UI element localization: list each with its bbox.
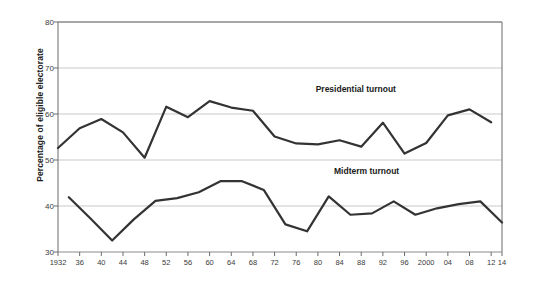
x-tick-label: 12 — [487, 258, 495, 267]
series-line-midterm — [69, 181, 502, 240]
x-tick-label: 08 — [465, 258, 473, 267]
x-tick-label: 84 — [335, 258, 343, 267]
x-tick-label: 96 — [400, 258, 408, 267]
series-line-presidential — [58, 101, 491, 158]
x-tick-label: 36 — [75, 258, 83, 267]
y-tick-label: 60 — [28, 110, 54, 119]
x-tick-label: 40 — [97, 258, 105, 267]
x-tick-label: 64 — [227, 258, 235, 267]
y-axis-tick-labels: 304050607080 — [22, 0, 54, 289]
x-tick-label: 76 — [292, 258, 300, 267]
x-tick-label: 80 — [314, 258, 322, 267]
series-label-presidential: Presidential turnout — [316, 84, 396, 94]
x-tick-label: 2000 — [418, 258, 435, 267]
y-tick-label: 80 — [28, 18, 54, 27]
x-axis-tick-labels: 1932364044485256606468727680848892962000… — [0, 258, 533, 278]
y-tick-label: 30 — [28, 248, 54, 257]
x-tick-label: 56 — [184, 258, 192, 267]
x-tick-label: 52 — [162, 258, 170, 267]
x-tick-label: 44 — [119, 258, 127, 267]
x-tick-label: 1932 — [50, 258, 67, 267]
x-tick-label: 68 — [249, 258, 257, 267]
y-tick-label: 70 — [28, 64, 54, 73]
series-label-midterm: Midterm turnout — [334, 166, 399, 176]
x-tick-label: 72 — [270, 258, 278, 267]
turnout-line-chart: Percentage of eligible electorate 304050… — [0, 0, 533, 289]
plot-area — [0, 0, 533, 289]
y-tick-label: 50 — [28, 156, 54, 165]
y-tick-label: 40 — [28, 202, 54, 211]
x-tick-label: 60 — [205, 258, 213, 267]
x-tick-label: 48 — [140, 258, 148, 267]
x-tick-label: 88 — [357, 258, 365, 267]
x-tick-label: 92 — [379, 258, 387, 267]
x-tick-label: 04 — [444, 258, 452, 267]
x-tick-label: 14 — [498, 258, 506, 267]
